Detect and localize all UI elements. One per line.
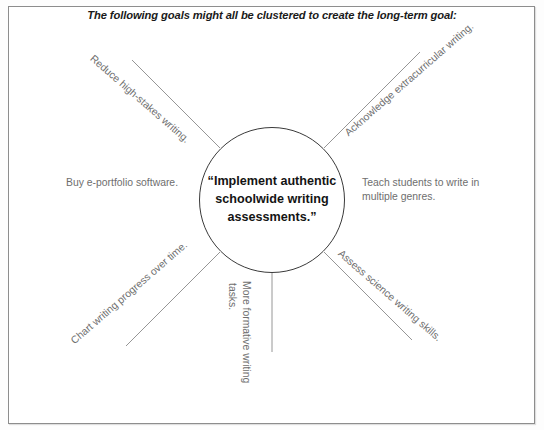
central-goal-line-3: assessments.”	[206, 209, 338, 227]
spoke-line-sw	[126, 252, 220, 346]
central-goal-text: “Implement authentic schoolwide writing …	[206, 173, 338, 227]
spoke-label-buy-e-portfolio-software: Buy e-portfolio software.	[66, 176, 178, 190]
spoke-label-more-formative-writing-tasks: More formative writing tasks.	[225, 281, 253, 401]
spoke-label-teach-students-multiple-genres: Teach students to write in multiple genr…	[362, 176, 486, 204]
spoke-label-teach-line-1: Teach students to write in	[362, 176, 486, 190]
diagram-page: The following goals might all be cluster…	[0, 0, 544, 430]
central-goal-circle: “Implement authentic schoolwide writing …	[199, 127, 345, 273]
spoke-line-ne	[324, 52, 420, 148]
central-goal-line-1: “Implement authentic	[206, 173, 338, 191]
central-goal-line-2: schoolwide writing	[206, 191, 338, 209]
spoke-label-teach-line-2: multiple genres.	[362, 190, 486, 204]
spoke-label-formative-col-2: tasks.	[225, 283, 239, 310]
spoke-label-formative-col-1: More formative writing	[239, 281, 253, 383]
